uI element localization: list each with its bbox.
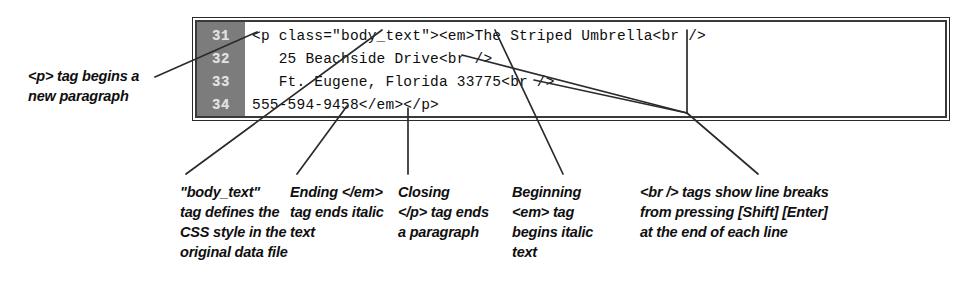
line-number: 34	[197, 94, 245, 117]
callout-line: <p> tag begins a	[28, 66, 139, 86]
body-text-callout: "body_text" tag defines the CSS style in…	[180, 182, 288, 262]
annotated-code-figure: 31 32 33 34 <p class="body_text"><em>The…	[0, 0, 971, 302]
callout-line: Ending </em>	[290, 182, 384, 202]
callout-line: "body_text"	[180, 182, 288, 202]
line-number: 31	[197, 25, 245, 48]
callout-line: <br /> tags show line breaks	[640, 182, 829, 202]
code-listing-box: 31 32 33 34 <p class="body_text"><em>The…	[192, 17, 950, 121]
code-line: Ft. Eugene, Florida 33775<br />	[252, 71, 945, 94]
callout-line: Closing	[398, 182, 489, 202]
code-line: 25 Beachside Drive<br />	[252, 48, 945, 71]
callout-line: begins italic	[512, 222, 593, 242]
code-line: <p class="body_text"><em>The Striped Umb…	[252, 25, 945, 48]
callout-line: at the end of each line	[640, 222, 829, 242]
callout-line: Beginning	[512, 182, 593, 202]
closing-p-callout: Closing </p> tag ends a paragraph	[398, 182, 489, 242]
code-line: 555-594-9458</em></p>	[252, 94, 945, 117]
code-listing-inner: 31 32 33 34 <p class="body_text"><em>The…	[195, 20, 947, 118]
code-text-area[interactable]: <p class="body_text"><em>The Striped Umb…	[245, 22, 945, 116]
callout-line: <em> tag	[512, 202, 593, 222]
leader-br-stem	[687, 113, 758, 174]
callout-line: tag ends italic	[290, 202, 384, 222]
callout-line: original data file	[180, 242, 288, 262]
br-tags-callout: <br /> tags show line breaks from pressi…	[640, 182, 829, 242]
callout-line: new paragraph	[28, 86, 139, 106]
line-number: 33	[197, 71, 245, 94]
p-tag-callout: <p> tag begins a new paragraph	[28, 66, 139, 106]
callout-line: a paragraph	[398, 222, 489, 242]
callout-line: text	[512, 242, 593, 262]
line-number: 32	[197, 48, 245, 71]
ending-em-callout: Ending </em> tag ends italic text	[290, 182, 384, 242]
callout-line: text	[290, 222, 384, 242]
callout-line: from pressing [Shift] [Enter]	[640, 202, 829, 222]
line-number-gutter: 31 32 33 34	[197, 22, 245, 116]
callout-line: </p> tag ends	[398, 202, 489, 222]
beginning-em-callout: Beginning <em> tag begins italic text	[512, 182, 593, 262]
callout-line: tag defines the	[180, 202, 288, 222]
callout-line: CSS style in the	[180, 222, 288, 242]
